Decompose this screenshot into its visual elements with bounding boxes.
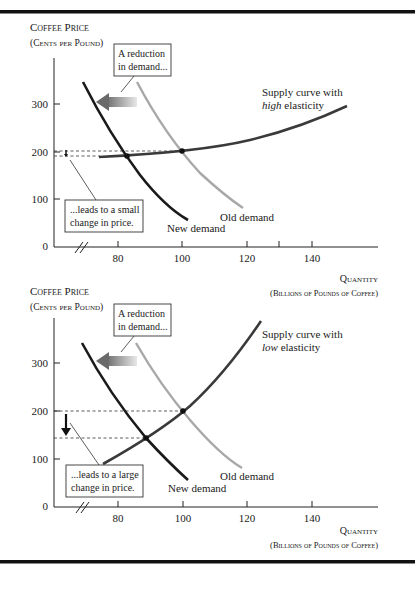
callout-top-line2: in demand... — [118, 321, 167, 332]
price-drop-arrow-icon — [61, 414, 71, 436]
y-tick-100: 100 — [32, 193, 49, 205]
panel-low-elasticity: Coffee Price (Cents per Pound) 300 200 1… — [30, 285, 378, 550]
y-tick-300: 300 — [32, 98, 49, 110]
callout-top-line1: A reduction — [118, 48, 165, 59]
x-axis-unit: (Billions of Pounds of Coffee) — [270, 288, 378, 298]
x-ticks — [118, 501, 312, 507]
x-axis-unit: (Billions of Pounds of Coffee) — [270, 540, 378, 550]
y-tick-0: 0 — [43, 500, 49, 512]
supply-label-line1: Supply curve with — [262, 328, 343, 340]
x-tick-80: 80 — [113, 252, 125, 264]
supply-label-emphasis: high — [262, 99, 282, 111]
x-ticks — [118, 241, 312, 247]
equilibrium-new — [124, 153, 130, 159]
x-tick-100: 100 — [175, 512, 192, 524]
x-tick-140: 140 — [304, 252, 321, 264]
supply-label-line2: high elasticity — [262, 99, 325, 111]
old-demand-label: Old demand — [220, 211, 275, 223]
x-tick-100: 100 — [174, 252, 191, 264]
supply-label-emphasis: low — [262, 341, 279, 353]
supply-label-rest: elasticity — [282, 99, 325, 111]
x-tick-120: 120 — [239, 252, 256, 264]
y-tick-300: 300 — [32, 357, 49, 369]
y-axis-title: Coffee Price — [30, 285, 89, 297]
top-rule — [0, 10, 415, 14]
callout-leader-top — [121, 336, 134, 352]
bottom-rule — [0, 560, 415, 564]
y-axis-unit: (Cents per Pound) — [30, 302, 103, 313]
supply-label-line1: Supply curve with — [262, 86, 343, 98]
supply-label-line2: low elasticity — [262, 341, 321, 353]
equilibrium-new — [143, 435, 149, 441]
x-tick-140: 140 — [304, 512, 321, 524]
x-tick-80: 80 — [113, 512, 125, 524]
demand-shift-arrow-icon — [96, 93, 137, 111]
callout-leader-top — [121, 76, 134, 92]
supply-curve-high — [99, 106, 347, 157]
y-axis-unit: (Cents per Pound) — [30, 38, 103, 49]
y-tick-0: 0 — [43, 240, 49, 252]
y-tick-200: 200 — [32, 146, 49, 158]
y-axis-title: Coffee Price — [30, 21, 89, 33]
y-ticks — [54, 104, 60, 199]
y-tick-100: 100 — [32, 453, 49, 465]
new-demand-label: New demand — [167, 222, 226, 234]
callout-bottom-line1: ...leads to a large — [71, 469, 139, 480]
x-axis-title: Quantity — [340, 273, 378, 284]
callout-top-line1: A reduction — [118, 308, 165, 319]
x-axis-title: Quantity — [340, 525, 378, 536]
supply-label-rest: elasticity — [278, 341, 321, 353]
equilibrium-old — [180, 408, 186, 414]
y-tick-200: 200 — [32, 405, 49, 417]
callout-bottom-line2: change in price. — [71, 482, 135, 493]
equilibrium-old — [179, 148, 185, 154]
callout-leader-bottom — [70, 160, 96, 200]
demand-shift-arrow-icon — [96, 352, 137, 370]
supply-curve-low — [103, 321, 261, 464]
panel-high-elasticity: Coffee Price (Cents per Pound) 300 200 1… — [30, 21, 378, 298]
old-demand-label: Old demand — [220, 470, 275, 482]
callout-bottom-line2: change in price. — [70, 217, 134, 228]
callout-bottom-line1: ...leads to a small — [70, 204, 140, 215]
figure: Coffee Price (Cents per Pound) 300 200 1… — [0, 0, 415, 589]
x-tick-120: 120 — [239, 512, 256, 524]
callout-leader-bottom — [70, 423, 99, 465]
callout-top-line2: in demand... — [118, 61, 167, 72]
new-demand-label: New demand — [168, 482, 227, 494]
